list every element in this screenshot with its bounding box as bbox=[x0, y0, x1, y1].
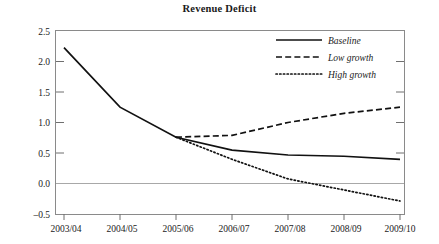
chart-figure: Revenue Deficit 2.5 bbox=[0, 0, 439, 244]
x-tick-label: 2005/06 bbox=[162, 224, 193, 234]
revenue-deficit-line-chart: 2.5 2.0 1.5 1.0 0.5 0.0 –0.5 2003/04 200… bbox=[0, 0, 439, 244]
x-tick-label: 2003/04 bbox=[50, 224, 81, 234]
x-tick-label: 2009/10 bbox=[384, 224, 415, 234]
x-tick-label: 2007/08 bbox=[274, 224, 305, 234]
x-axis-tick-labels: 2003/04 2004/05 2005/06 2006/07 2007/08 … bbox=[50, 224, 415, 234]
x-tick-label: 2006/07 bbox=[218, 224, 249, 234]
series-line-high-growth bbox=[176, 137, 400, 201]
chart-legend: Baseline Low growth High growth bbox=[276, 36, 376, 80]
y-tick-label: 0.0 bbox=[38, 179, 50, 189]
y-tick-label: 0.5 bbox=[38, 149, 50, 159]
y-tick-label: 2.5 bbox=[38, 27, 50, 37]
y-tick-label: 2.0 bbox=[38, 57, 50, 67]
legend-label-baseline: Baseline bbox=[328, 36, 361, 46]
x-tick-label: 2004/05 bbox=[106, 224, 137, 234]
y-tick-label: 1.5 bbox=[38, 88, 50, 98]
series-line-baseline bbox=[64, 48, 400, 160]
legend-label-high-growth: High growth bbox=[327, 70, 376, 80]
y-axis-tick-labels: 2.5 2.0 1.5 1.0 0.5 0.0 –0.5 bbox=[32, 27, 50, 220]
series-line-low-growth bbox=[176, 107, 400, 137]
x-tick-label: 2008/09 bbox=[330, 224, 361, 234]
y-tick-label: –0.5 bbox=[32, 210, 50, 220]
legend-label-low-growth: Low growth bbox=[327, 53, 374, 63]
y-tick-label: 1.0 bbox=[38, 118, 50, 128]
